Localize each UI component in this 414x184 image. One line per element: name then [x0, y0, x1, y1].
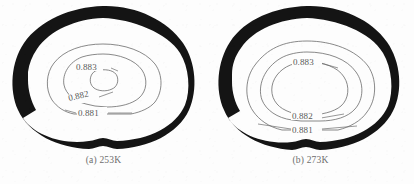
label-leader-0.881-b [322, 126, 357, 129]
contour-panel-a: 0.883 0.882 0.881 (a) 253K [0, 0, 207, 184]
panel-caption-b: (b) 273K [207, 155, 414, 165]
contour-label-0.883-b: 0.883 [293, 57, 314, 67]
contour-line-0.881-a [47, 44, 161, 114]
contour-plot-a: 0.883 0.882 0.881 [0, 0, 207, 155]
contour-label-0.882-b: 0.882 [292, 111, 313, 121]
label-leader-0.882-a [99, 92, 113, 97]
contour-line-0.883-a [90, 70, 118, 91]
label-leader-0.882-b [321, 114, 344, 118]
label-leader-0.883-a [111, 68, 118, 71]
contour-line-0.883-b [272, 62, 348, 115]
figure-container: 0.883 0.882 0.881 (a) 253K [0, 0, 414, 184]
contour-plot-b: 0.883 0.882 0.881 [207, 0, 414, 155]
panel-caption-a: (a) 253K [0, 155, 207, 165]
contour-label-0.881-a: 0.881 [78, 108, 99, 118]
contour-label-0.881-b: 0.881 [292, 125, 313, 135]
label-leader-0.883-b [321, 63, 338, 68]
contour-panel-b: 0.883 0.882 0.881 (b) 273K [207, 0, 414, 184]
contour-label-0.883-a: 0.883 [76, 62, 97, 72]
label-leader-0.881-left-b [258, 124, 291, 129]
outer-boundary-band-a [12, 6, 194, 149]
